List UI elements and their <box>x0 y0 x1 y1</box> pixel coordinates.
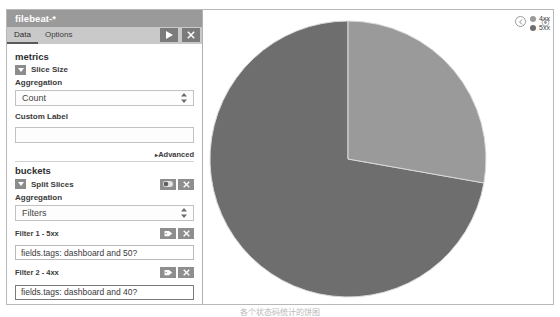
visualization-editor-window: filebeat-* Data Options <box>6 9 554 305</box>
filter-header: Filter 2 - 4xx <box>15 267 194 278</box>
chevron-updown-icon <box>181 93 187 103</box>
slice-size-label: Slice Size <box>31 65 68 74</box>
remove-filter-button[interactable] <box>178 228 194 239</box>
tab-action-buttons <box>158 27 202 43</box>
custom-label-label: Custom Label <box>15 112 194 121</box>
metrics-aggregation-value: Count <box>22 93 46 103</box>
tab-data[interactable]: Data <box>7 27 38 43</box>
legend-label: 5xx <box>539 24 550 31</box>
split-slices-actions <box>160 179 194 190</box>
discard-changes-button[interactable] <box>182 28 200 42</box>
buckets-aggregation-select[interactable]: Filters <box>15 205 194 221</box>
legend-color-swatch <box>530 25 536 31</box>
filter-actions <box>160 267 194 278</box>
pie-chart[interactable] <box>209 18 487 300</box>
legend-items: 4xx 5xx <box>530 15 550 31</box>
chart-area: 4xx 5xx <box>203 10 553 304</box>
chevron-updown-icon <box>181 208 187 218</box>
legend-label: 4xx <box>539 15 550 22</box>
apply-changes-button[interactable] <box>160 28 178 42</box>
panel-divider <box>15 161 194 162</box>
split-slices-row[interactable]: Split Slices <box>15 179 194 190</box>
tab-options[interactable]: Options <box>38 27 80 43</box>
legend-item-5xx[interactable]: 5xx <box>530 24 550 31</box>
play-icon <box>166 31 173 39</box>
slice-size-row[interactable]: Slice Size <box>15 65 194 75</box>
pie-slice-4xx[interactable] <box>348 21 486 183</box>
split-slices-label: Split Slices <box>31 180 74 189</box>
pie-chart-svg <box>209 18 487 300</box>
legend-color-swatch <box>530 16 536 22</box>
index-pattern-titlebar: filebeat-* <box>7 10 202 27</box>
legend-item-4xx[interactable]: 4xx <box>530 15 550 22</box>
caret-down-icon[interactable] <box>15 65 26 75</box>
metrics-heading: metrics <box>15 51 194 62</box>
tab-options-label: Options <box>45 30 73 39</box>
filter-title: Filter 2 - 4xx <box>15 268 59 277</box>
tag-icon[interactable] <box>160 228 176 239</box>
tab-data-label: Data <box>14 30 31 39</box>
filter-query-input[interactable] <box>15 285 194 300</box>
legend-toggle-icon[interactable] <box>515 16 526 27</box>
editor-panel-body: metrics Slice Size Aggregation Count Cus… <box>7 44 202 304</box>
editor-tabs: Data Options <box>7 27 202 43</box>
buckets-heading: buckets <box>15 165 194 176</box>
metrics-aggregation-select[interactable]: Count <box>15 90 194 106</box>
caret-down-icon[interactable] <box>15 179 26 189</box>
tag-icon[interactable] <box>160 267 176 278</box>
remove-split-slices-button[interactable] <box>178 179 194 190</box>
advanced-toggle[interactable]: ▸Advanced <box>15 150 194 159</box>
filter-actions <box>160 228 194 239</box>
pie-slices <box>210 21 486 297</box>
buckets-aggregation-label: Aggregation <box>15 193 194 202</box>
filter-header: Filter 1 - 5xx <box>15 228 194 239</box>
custom-label-input[interactable] <box>15 127 194 143</box>
index-pattern-title: filebeat-* <box>15 13 56 24</box>
filter-block: Filter 2 - 4xx <box>15 267 194 300</box>
remove-filter-button[interactable] <box>178 267 194 278</box>
close-icon <box>187 31 195 39</box>
filter-title: Filter 1 - 5xx <box>15 229 59 238</box>
chart-legend: 4xx 5xx <box>515 15 550 31</box>
metrics-aggregation-label: Aggregation <box>15 78 194 87</box>
toggle-icon[interactable] <box>160 179 176 190</box>
figure-caption: 各个状态码统计的饼图 <box>0 306 560 317</box>
editor-sidebar: filebeat-* Data Options <box>7 10 203 304</box>
buckets-aggregation-value: Filters <box>22 208 47 218</box>
filter-block: Filter 1 - 5xx <box>15 228 194 261</box>
filter-query-input[interactable] <box>15 245 194 260</box>
advanced-label: Advanced <box>158 150 194 159</box>
